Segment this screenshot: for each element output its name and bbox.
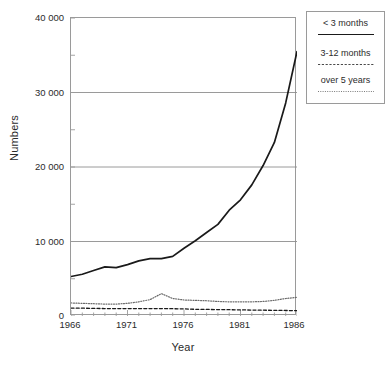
y-tick-label-20000: 20 000 [35, 161, 64, 172]
x-tick-label-1976: 1976 [172, 319, 193, 330]
x-tick-label-1966: 1966 [59, 319, 80, 330]
y-tick-label-30000: 30 000 [35, 86, 64, 97]
plot-area [70, 17, 296, 315]
legend-entry-less-than-3-months[interactable]: < 3 months [307, 17, 384, 44]
data-series-layer [71, 52, 297, 311]
y-tick-label-10000: 10 000 [35, 235, 64, 246]
y-axis-tick-labels: 40 000 30 000 20 000 10 000 0 [16, 17, 64, 315]
legend-swatch-solid [318, 33, 374, 35]
legend-swatch-dotted [318, 90, 374, 92]
legend-entry-3-12-months[interactable]: 3-12 months [307, 47, 384, 74]
series-line-over-5-years [71, 294, 297, 304]
series-line-3-months [71, 52, 297, 277]
legend-label: 3-12 months [307, 47, 384, 59]
x-tick-label-1986: 1986 [283, 319, 304, 330]
plot-canvas [71, 18, 297, 316]
y-tick-label-40000: 40 000 [35, 12, 64, 23]
x-tick-label-1981: 1981 [229, 319, 250, 330]
x-tick-label-1971: 1971 [116, 319, 137, 330]
legend-label: < 3 months [307, 17, 384, 29]
legend-label: over 5 years [307, 74, 384, 86]
line-chart-figure: Numbers 40 000 30 000 20 000 10 000 0 19… [0, 0, 391, 374]
x-axis-title: Year [70, 341, 296, 353]
legend-swatch-dashed [318, 63, 374, 65]
x-axis-tick-labels: 1966 1971 1976 1981 1986 [70, 319, 296, 335]
legend-entry-over-5-years[interactable]: over 5 years [307, 74, 384, 101]
chart-legend: < 3 months 3-12 months over 5 years [306, 11, 385, 104]
